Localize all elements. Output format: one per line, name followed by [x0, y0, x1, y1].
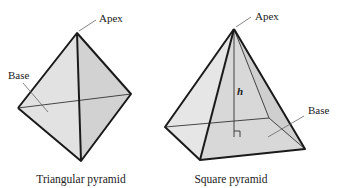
tri-caption: Triangular pyramid [36, 173, 126, 186]
tri-apex-label: Apex [99, 12, 123, 24]
triangular-pyramid: Apex Base Triangular pyramid [8, 12, 131, 186]
pyramids-diagram: Apex Base Triangular pyramid h Apex Base… [0, 0, 341, 188]
sq-apex-label: Apex [255, 10, 279, 22]
tri-apex-leader [79, 20, 96, 31]
sq-apex-leader [236, 17, 251, 27]
sq-base-label: Base [308, 104, 330, 116]
square-pyramid: h Apex Base Square pyramid [165, 10, 330, 186]
sq-caption: Square pyramid [194, 173, 267, 186]
sq-height-label: h [237, 85, 243, 97]
tri-base-label: Base [8, 69, 30, 81]
